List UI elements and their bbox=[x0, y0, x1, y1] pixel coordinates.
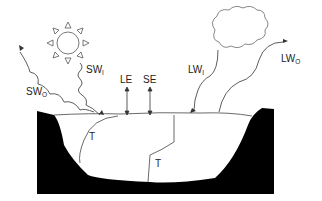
lw-in-label: LWI bbox=[188, 64, 204, 76]
lw-out-label: LWO bbox=[281, 53, 300, 65]
sw-in-label: SWI bbox=[86, 64, 104, 76]
temperature-label-2: T bbox=[155, 158, 161, 169]
se-label: SE bbox=[143, 74, 157, 85]
le-arrow bbox=[125, 87, 129, 115]
sun-icon bbox=[47, 22, 89, 64]
lw-out-arrow bbox=[219, 42, 283, 112]
se-arrow bbox=[148, 87, 152, 115]
ground-basin bbox=[37, 108, 274, 194]
energy-balance-diagram: SWI SWO LE SE LWI LWO T T bbox=[0, 0, 322, 201]
thermocline-right bbox=[148, 115, 174, 182]
temperature-label-1: T bbox=[89, 131, 95, 142]
sw-out-arrow bbox=[20, 52, 94, 112]
cloud-icon bbox=[212, 6, 268, 47]
lw-out-arrowhead bbox=[283, 39, 288, 43]
le-label: LE bbox=[120, 74, 133, 85]
sw-out-arrowhead bbox=[19, 45, 24, 51]
sw-out-label: SWO bbox=[26, 86, 47, 98]
water-surface bbox=[54, 113, 252, 116]
thermocline-left bbox=[80, 116, 119, 163]
lw-in-arrowhead bbox=[190, 108, 196, 113]
lw-in-arrow bbox=[194, 50, 218, 110]
